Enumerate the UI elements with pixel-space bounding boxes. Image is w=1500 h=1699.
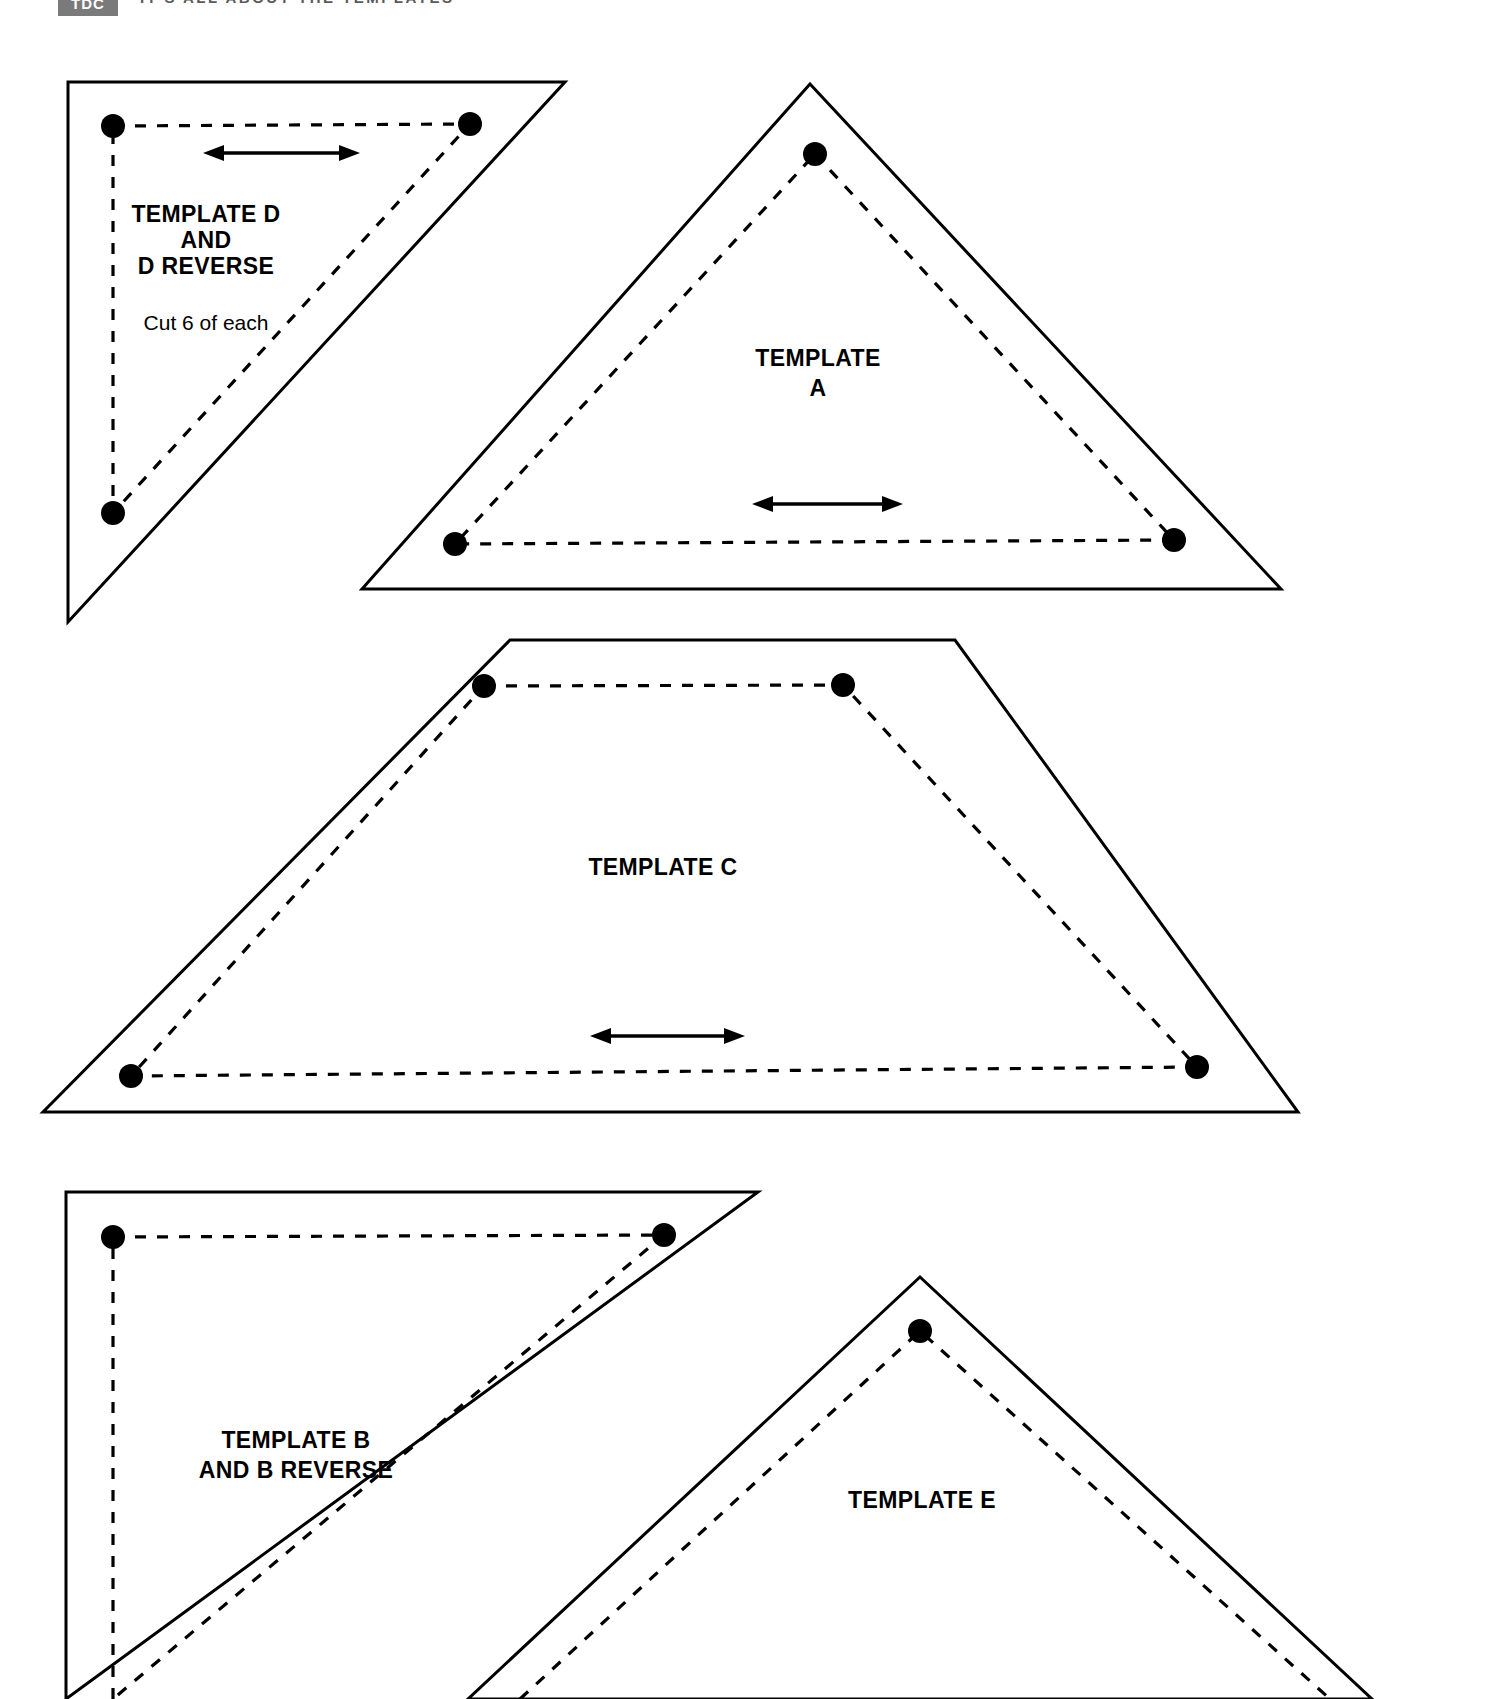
template-sheet-page: TDC IT'S ALL ABOUT THE TEMPLATES TEMPLAT… [0, 0, 1500, 1699]
template-b-seam-dot [652, 1223, 676, 1247]
template-diagram-canvas: TEMPLATE D AND D REVERSE Cut 6 of each T… [0, 0, 1500, 1699]
template-c-grain-arrow [590, 1028, 745, 1044]
template-a-seam-dot [443, 532, 467, 556]
template-d-seam-dot [101, 501, 125, 525]
template-e-group: TEMPLATE E [468, 1277, 1372, 1699]
template-a-seam-dot [803, 142, 827, 166]
template-c-seam-dot [472, 674, 496, 698]
template-a-seam-dot [1162, 528, 1186, 552]
template-b-label-line-1: TEMPLATE B [221, 1427, 370, 1453]
template-a-grain-arrow [752, 496, 903, 512]
template-d-group: TEMPLATE D AND D REVERSE Cut 6 of each [68, 82, 565, 622]
template-d-seam-dot [458, 112, 482, 136]
template-c-seam-line [131, 685, 1197, 1076]
template-d-cut-line [68, 82, 565, 622]
template-e-seam-line [520, 1331, 1330, 1699]
template-d-grain-arrow [203, 145, 360, 161]
template-b-group: TEMPLATE B AND B REVERSE [66, 1192, 758, 1699]
template-c-seam-dot [831, 673, 855, 697]
template-c-group: TEMPLATE C [43, 640, 1298, 1112]
template-d-seam-dot [101, 114, 125, 138]
template-a-group: TEMPLATE A [362, 84, 1281, 589]
template-d-label-line-1: TEMPLATE D [131, 201, 280, 227]
template-d-label-line-3: D REVERSE [138, 253, 275, 279]
template-c-seam-dot [119, 1064, 143, 1088]
template-d-label-line-2: AND [180, 227, 231, 253]
template-b-label-line-2: AND B REVERSE [199, 1457, 393, 1483]
template-d-cut-note: Cut 6 of each [144, 311, 269, 334]
template-a-label-line-1: TEMPLATE [755, 345, 880, 371]
template-e-label-line-1: TEMPLATE E [848, 1487, 996, 1513]
template-c-seam-dot [1185, 1055, 1209, 1079]
template-b-seam-dot [101, 1225, 125, 1249]
template-c-label-line-1: TEMPLATE C [588, 854, 737, 880]
template-e-seam-dot [908, 1319, 932, 1343]
template-b-cut-line [66, 1192, 758, 1699]
template-a-label-line-2: A [809, 375, 826, 401]
